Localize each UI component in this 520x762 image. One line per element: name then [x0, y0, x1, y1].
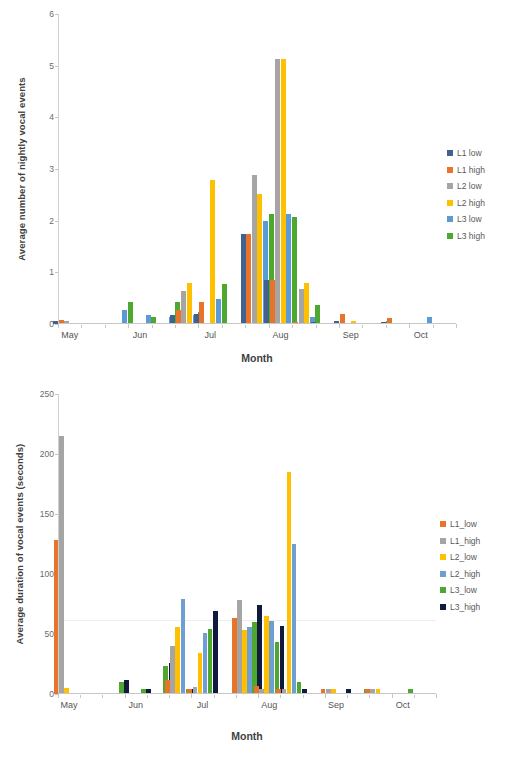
x-axis-tick-mark	[292, 325, 293, 328]
bar	[241, 234, 246, 324]
legend-item: L1 low	[447, 145, 485, 162]
x-axis-tick-mark	[347, 695, 348, 698]
legend-swatch-icon	[440, 538, 446, 544]
bar	[237, 600, 242, 694]
bar	[269, 621, 274, 694]
x-axis-tick-mark	[414, 695, 415, 698]
bar	[280, 626, 285, 694]
legend-item-label: L1_low	[450, 520, 477, 529]
legend-swatch-icon	[440, 604, 446, 610]
x-axis-tick-mark	[386, 325, 387, 328]
bar	[270, 280, 275, 324]
x-axis-tick-mark	[191, 694, 192, 698]
x-axis-tick-mark	[152, 325, 153, 328]
bar	[299, 289, 304, 324]
chart1-x-axis-line	[58, 323, 456, 324]
y-axis-tick-label: 200	[32, 450, 54, 459]
x-axis-tick-mark	[214, 695, 215, 698]
x-axis-tick-mark	[81, 325, 82, 328]
x-axis-month-label: Aug	[261, 700, 277, 710]
bar	[287, 472, 292, 694]
bar	[210, 180, 215, 324]
legend-item-label: L3_low	[450, 586, 477, 595]
bar	[304, 283, 309, 324]
x-axis-tick-mark	[80, 695, 81, 698]
bar	[165, 680, 170, 694]
legend-item: L1 high	[447, 162, 485, 179]
y-axis-tick-label: 0	[32, 320, 54, 329]
x-axis-month-label: Jul	[204, 330, 216, 340]
y-axis-tick-label: 2	[32, 216, 54, 225]
legend-item: L2 low	[447, 178, 485, 195]
legend-swatch-icon	[447, 167, 453, 173]
x-axis-month-label: Sep	[343, 330, 359, 340]
y-axis-tick-label: 100	[32, 570, 54, 579]
bar	[242, 630, 247, 694]
x-axis-month-label: Sep	[328, 700, 344, 710]
legend-swatch-icon	[440, 554, 446, 560]
chart1-y-axis-title: Average number of nightly vocal events	[16, 14, 27, 324]
legend-item-label: L3 high	[457, 232, 485, 241]
bar	[246, 234, 251, 324]
bar	[128, 302, 133, 324]
legend-item: L2_high	[440, 566, 480, 583]
x-axis-tick-mark	[362, 325, 363, 328]
legend-item-label: L3 low	[457, 215, 482, 224]
y-axis-tick-label: 0	[32, 690, 54, 699]
legend-item: L3 high	[447, 228, 485, 245]
legend-item-label: L1 high	[457, 166, 485, 175]
x-axis-tick-mark	[58, 694, 59, 698]
legend-item: L3 low	[447, 211, 485, 228]
x-axis-tick-mark	[169, 695, 170, 698]
bar	[275, 642, 280, 694]
y-axis-tick-label: 4	[32, 113, 54, 122]
bar	[222, 284, 227, 324]
chart2-y-axis-line	[58, 394, 59, 694]
x-axis-tick-mark	[58, 324, 59, 328]
x-axis-tick-mark	[258, 694, 259, 698]
bar	[275, 59, 280, 324]
x-axis-month-label: Aug	[272, 330, 288, 340]
legend-item: L2_low	[440, 549, 480, 566]
chart2-y-axis-title: Average duration of vocal events (second…	[14, 394, 25, 694]
legend-item: L1_low	[440, 516, 480, 533]
x-axis-month-label: Oct	[396, 700, 410, 710]
x-axis-tick-mark	[325, 694, 326, 698]
chart1-x-axis-title: Month	[0, 352, 456, 364]
bar	[124, 680, 129, 694]
x-axis-month-label: May	[61, 330, 78, 340]
legend-swatch-icon	[440, 571, 446, 577]
x-axis-tick-mark	[303, 695, 304, 698]
bar	[176, 310, 181, 324]
legend-swatch-icon	[447, 216, 453, 222]
y-axis-tick-label: 6	[32, 10, 54, 19]
y-axis-tick-label: 5	[32, 61, 54, 70]
bar	[59, 436, 64, 694]
bar	[257, 605, 262, 694]
bar	[181, 599, 186, 694]
chart1-y-axis-line	[58, 14, 59, 324]
legend-swatch-icon	[447, 150, 453, 156]
x-axis-tick-mark	[245, 325, 246, 328]
chart2-plot-area: 050100150200250MayJunJulAugSepOct	[58, 394, 436, 694]
x-axis-tick-mark	[175, 325, 176, 328]
chart2-x-axis-line	[58, 693, 436, 694]
legend-item-label: L2_high	[450, 570, 480, 579]
x-axis-tick-mark	[269, 324, 270, 328]
x-axis-tick-mark	[280, 695, 281, 698]
bar	[292, 544, 297, 694]
x-axis-month-label: Jul	[197, 700, 209, 710]
bar	[175, 627, 180, 694]
figure-page: Average number of nightly vocal events 0…	[0, 0, 520, 762]
y-axis-tick-label: 150	[32, 510, 54, 519]
legend-swatch-icon	[440, 521, 446, 527]
bar	[232, 618, 237, 694]
legend-item: L2 high	[447, 195, 485, 212]
x-axis-tick-mark	[125, 694, 126, 698]
y-axis-tick-label: 1	[32, 268, 54, 277]
legend-item: L3_high	[440, 599, 480, 616]
x-axis-tick-mark	[236, 695, 237, 698]
bar	[286, 214, 291, 324]
x-axis-tick-mark	[102, 695, 103, 698]
x-axis-month-label: May	[61, 700, 78, 710]
